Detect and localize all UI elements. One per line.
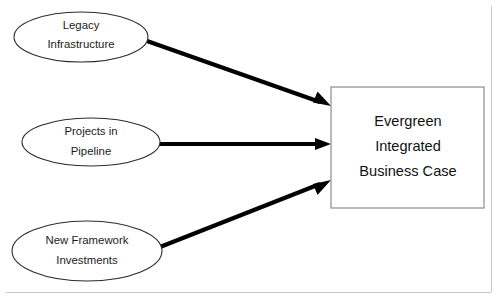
arrow-framework-to-case[interactable] <box>160 180 331 247</box>
node-evergreen-integrated-business-case[interactable]: Evergreen Integrated Business Case <box>331 87 484 208</box>
evergreen-business-case-label-line2: Integrated <box>375 138 441 154</box>
new-framework-investments-label-line2: Investments <box>56 254 118 266</box>
arrow-pipeline-to-case[interactable] <box>159 138 331 150</box>
arrow-framework-shaft <box>160 184 320 247</box>
arrow-framework-head <box>313 180 331 195</box>
evergreen-business-case-label-line3: Business Case <box>359 163 456 179</box>
legacy-infrastructure-label-line1: Legacy <box>63 19 100 31</box>
node-projects-in-pipeline[interactable]: Projects in Pipeline <box>22 118 160 166</box>
arrow-legacy-to-case[interactable] <box>147 41 331 106</box>
arrow-legacy-shaft <box>147 41 320 102</box>
legacy-infrastructure-label-line2: Infrastructure <box>47 38 114 50</box>
projects-in-pipeline-label-line1: Projects in <box>64 125 117 137</box>
new-framework-investments-ellipse <box>12 221 162 281</box>
evergreen-business-case-label-line1: Evergreen <box>374 113 441 129</box>
new-framework-investments-label-line1: New Framework <box>46 234 129 246</box>
node-legacy-infrastructure[interactable]: Legacy Infrastructure <box>14 12 148 62</box>
node-new-framework-investments[interactable]: New Framework Investments <box>12 221 162 281</box>
arrow-legacy-head <box>313 92 331 107</box>
diagram-svg-surface: Legacy Infrastructure Projects in Pipeli… <box>0 0 500 299</box>
projects-in-pipeline-label-line2: Pipeline <box>71 145 112 157</box>
diagram-canvas: Legacy Infrastructure Projects in Pipeli… <box>0 0 500 299</box>
arrow-pipeline-head <box>315 138 331 150</box>
